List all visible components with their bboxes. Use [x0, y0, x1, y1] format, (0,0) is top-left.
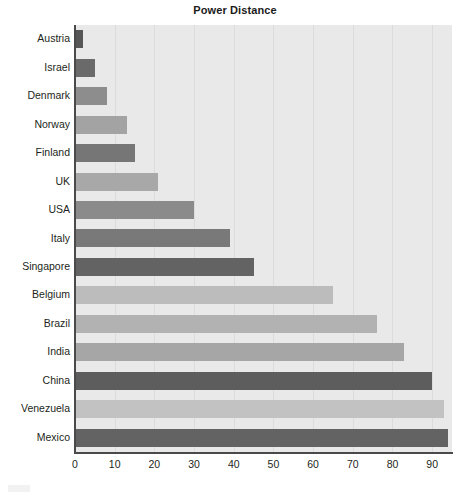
y-axis-label-austria: Austria	[2, 32, 70, 44]
y-axis-label-norway: Norway	[2, 118, 70, 130]
bar	[75, 144, 135, 162]
x-tick-label: 30	[174, 458, 214, 470]
bar	[75, 229, 230, 247]
y-axis-label-denmark: Denmark	[2, 89, 70, 101]
x-tick-label: 80	[372, 458, 412, 470]
bar-row	[75, 253, 452, 281]
scan-edge-artifact	[8, 485, 30, 492]
bar	[75, 429, 448, 447]
bar	[75, 400, 444, 418]
y-axis-line	[74, 25, 76, 453]
bar-row	[75, 310, 452, 338]
bar-row	[75, 82, 452, 110]
bar	[75, 59, 95, 77]
bar-row	[75, 424, 452, 452]
x-tick-label: 0	[55, 458, 95, 470]
x-axis-tick-labels: 0102030405060708090	[0, 458, 470, 478]
x-tick-label: 50	[253, 458, 293, 470]
bar-row	[75, 224, 452, 252]
y-axis-category-labels: AustriaIsraelDenmarkNorwayFinlandUKUSAIt…	[0, 25, 70, 452]
y-axis-label-venezuela: Venezuela	[2, 402, 70, 414]
bar	[75, 173, 158, 191]
bar	[75, 372, 432, 390]
bar-row	[75, 167, 452, 195]
bar-row	[75, 395, 452, 423]
bar	[75, 258, 254, 276]
bar	[75, 30, 83, 48]
x-tick-label: 40	[214, 458, 254, 470]
bar-row	[75, 139, 452, 167]
y-axis-label-china: China	[2, 374, 70, 386]
bar-row	[75, 281, 452, 309]
y-axis-label-brazil: Brazil	[2, 317, 70, 329]
bar	[75, 87, 107, 105]
y-axis-label-india: India	[2, 345, 70, 357]
bar-row	[75, 53, 452, 81]
y-axis-label-uk: UK	[2, 175, 70, 187]
bar-row	[75, 25, 452, 53]
bar-row	[75, 367, 452, 395]
x-tick-label: 20	[134, 458, 174, 470]
x-tick-label: 70	[333, 458, 373, 470]
power-distance-bar-chart: Power Distance AustriaIsraelDenmarkNorwa…	[0, 0, 470, 494]
bar	[75, 343, 404, 361]
x-tick-label: 90	[412, 458, 452, 470]
bar-row	[75, 338, 452, 366]
bar	[75, 201, 194, 219]
bar	[75, 315, 377, 333]
y-axis-label-belgium: Belgium	[2, 288, 70, 300]
bar	[75, 116, 127, 134]
y-axis-label-singapore: Singapore	[2, 260, 70, 272]
y-axis-label-usa: USA	[2, 203, 70, 215]
bar-row	[75, 110, 452, 138]
bar-row	[75, 196, 452, 224]
x-tick-label: 10	[95, 458, 135, 470]
y-axis-label-israel: Israel	[2, 61, 70, 73]
y-axis-label-finland: Finland	[2, 146, 70, 158]
chart-title: Power Distance	[0, 4, 470, 16]
bar	[75, 286, 333, 304]
y-axis-label-italy: Italy	[2, 232, 70, 244]
x-axis-line	[74, 452, 453, 454]
x-tick-label: 60	[293, 458, 333, 470]
plot-area	[75, 25, 452, 452]
y-axis-label-mexico: Mexico	[2, 431, 70, 443]
